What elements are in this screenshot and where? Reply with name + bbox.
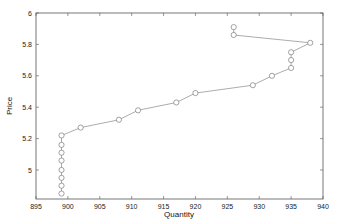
data-point-marker (231, 25, 236, 30)
data-point-marker (174, 100, 179, 105)
data-point-marker (78, 125, 83, 130)
data-point-marker (59, 150, 64, 155)
y-tick-label: 5.2 (22, 135, 32, 142)
data-point-marker (308, 40, 313, 45)
data-point-marker (59, 158, 64, 163)
x-tick-label: 930 (253, 203, 265, 210)
data-point-marker (59, 191, 64, 196)
data-point-marker (269, 73, 274, 78)
y-tick-label: 5 (28, 167, 32, 174)
x-tick-label: 900 (62, 203, 74, 210)
x-tick-label: 915 (158, 203, 170, 210)
x-tick-label: 905 (94, 203, 106, 210)
x-tick-label: 895 (30, 203, 42, 210)
x-tick-label: 940 (317, 203, 329, 210)
y-axis-label: Price (5, 96, 14, 115)
data-point-marker (289, 50, 294, 55)
y-tick-label: 5.8 (22, 41, 32, 48)
data-point-marker (135, 108, 140, 113)
data-point-marker (193, 90, 198, 95)
y-tick-label: 6 (28, 10, 32, 17)
data-point-marker (59, 175, 64, 180)
x-axis-label: Quantity (164, 210, 194, 219)
data-point-marker (59, 167, 64, 172)
x-tick-label: 925 (221, 203, 233, 210)
x-tick-label: 935 (285, 203, 297, 210)
data-point-marker (289, 65, 294, 70)
plot-area (36, 13, 323, 199)
data-point-marker (289, 58, 294, 63)
data-point-marker (250, 83, 255, 88)
data-point-marker (116, 117, 121, 122)
y-tick-label: 5.4 (22, 104, 32, 111)
y-tick-label: 5.6 (22, 72, 32, 79)
data-point-marker (59, 142, 64, 147)
x-tick-label: 910 (126, 203, 138, 210)
x-tick-label: 920 (190, 203, 202, 210)
data-point-marker (59, 133, 64, 138)
data-point-marker (59, 183, 64, 188)
data-point-marker (231, 32, 236, 37)
price-quantity-chart: 895900905910915920925930935940 55.25.45.… (0, 0, 346, 222)
